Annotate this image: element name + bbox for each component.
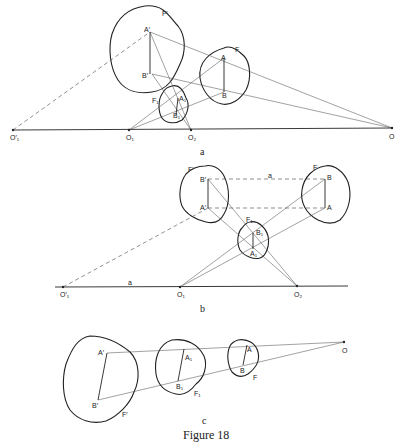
label-b-prime: B′	[200, 176, 207, 183]
label-a1: A₁	[185, 354, 193, 361]
label-a: A	[247, 346, 252, 353]
baseline-b	[55, 286, 348, 287]
label-line-a-top: a	[268, 172, 272, 179]
label-f-prime: F′	[122, 411, 128, 418]
label-b: B	[240, 367, 245, 374]
point-o2-b	[296, 285, 298, 287]
label-b-prime: B′	[92, 402, 99, 409]
label-f1: F₁	[246, 216, 253, 223]
label-o: O	[342, 347, 348, 354]
ray-a	[150, 32, 191, 130]
label-o1: O₁	[126, 134, 134, 141]
label-a-prime: A′	[200, 204, 207, 211]
label-b1: B₁	[256, 229, 264, 236]
label-b1: B₁	[176, 383, 184, 390]
label-o2: O₂	[188, 134, 196, 141]
panel-c: A′ B′ F′ A₁ B₁ F₁ A B F O c	[63, 336, 348, 426]
panel-a-caption: a	[200, 146, 205, 157]
label-a1: A₁	[179, 95, 187, 102]
ray-a	[129, 58, 224, 130]
label-f-prime: F′	[162, 10, 168, 17]
point-o-a	[391, 127, 393, 129]
segment-aprime-bprime-c	[98, 353, 107, 400]
figure-18-diagram: F′ A′ B′ F A B F₁ A₁ B₁ O′₁ O₁ O₂ O a	[0, 0, 403, 443]
label-b: B	[222, 92, 227, 99]
ray-b	[208, 179, 297, 286]
point-o1prime-a	[12, 129, 14, 131]
label-b: B	[327, 174, 332, 181]
baseline-a	[13, 128, 392, 130]
figure-caption: Figure 18	[183, 428, 229, 442]
point-o1-b	[179, 286, 181, 288]
panel-c-caption: c	[202, 415, 207, 426]
point-o1-a	[128, 129, 130, 131]
ray-c	[98, 342, 344, 400]
label-o1-prime: O′₁	[10, 134, 20, 141]
point-o-c	[343, 341, 345, 343]
label-f: F	[253, 374, 257, 381]
label-f1: F₁	[152, 97, 159, 104]
label-a-prime: A′	[144, 26, 151, 33]
blob-f-b	[302, 166, 350, 223]
label-f: F	[313, 164, 317, 171]
label-b1: B₁	[173, 112, 181, 119]
label-o1-prime: O′₁	[60, 291, 70, 298]
panel-b: F′ B′ A′ F B A F₁ B₁ A₁ a a O′₁ O₁ O₂ b	[55, 164, 350, 314]
label-a: A	[221, 54, 226, 61]
label-b-prime: B′	[142, 72, 149, 79]
label-f-prime: F′	[188, 166, 194, 173]
label-f: F	[235, 46, 239, 53]
blob-f-prime-a	[110, 6, 184, 93]
label-o1: O₁	[177, 291, 185, 298]
label-o2: O₂	[294, 291, 302, 298]
label-a-prime: A′	[98, 349, 105, 356]
label-o: O	[389, 133, 395, 140]
panel-a: F′ A′ B′ F A B F₁ A₁ B₁ O′₁ O₁ O₂ O a	[10, 6, 395, 157]
dashed-o1prime-aprime-a	[13, 32, 150, 130]
label-a: A	[327, 204, 332, 211]
ray-c	[107, 342, 344, 353]
dashed-o1prime-aprime-b	[63, 208, 208, 287]
ray-b	[180, 179, 325, 287]
point-o1prime-b	[62, 286, 64, 288]
point-o2-a	[190, 129, 192, 131]
label-f1: F₁	[194, 390, 201, 397]
segment-a1-b1-c	[178, 349, 184, 381]
panel-b-caption: b	[200, 303, 205, 314]
blob-f-prime-b	[180, 165, 229, 222]
label-a1: A₁	[250, 250, 258, 257]
label-line-a-bottom: a	[128, 279, 132, 286]
